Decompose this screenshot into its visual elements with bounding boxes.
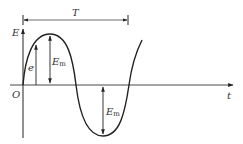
- period-label: T: [72, 7, 80, 18]
- amplitude-bottom-label: Em: [105, 106, 120, 118]
- amplitude-top-label: Em: [51, 56, 66, 68]
- origin-label: O: [12, 89, 20, 100]
- instantaneous-e-label: e: [28, 62, 34, 73]
- emf-waveform-diagram: T E t O e Em Em: [0, 0, 243, 144]
- y-axis-label: E: [11, 27, 20, 38]
- t-axis-label: t: [227, 90, 232, 101]
